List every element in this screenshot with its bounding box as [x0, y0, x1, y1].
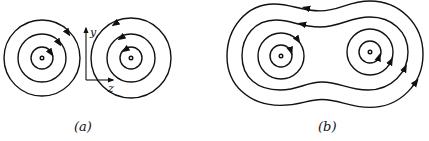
merged-field-loops — [227, 1, 423, 107]
left-source-circles — [258, 33, 304, 79]
field-lines-figure: y z (a) — [0, 0, 429, 141]
axis-z-label: z — [107, 82, 114, 95]
right-source-circles — [347, 29, 393, 75]
panel-a: y z (a) — [4, 18, 171, 134]
coordinate-axes: y z — [86, 26, 114, 95]
axis-y-label: y — [89, 26, 97, 39]
panel-b-label: (b) — [318, 119, 336, 134]
panel-a-label: (a) — [74, 119, 92, 134]
right-vortex — [91, 18, 171, 98]
panel-b: (b) — [227, 1, 423, 134]
left-vortex — [4, 20, 80, 96]
